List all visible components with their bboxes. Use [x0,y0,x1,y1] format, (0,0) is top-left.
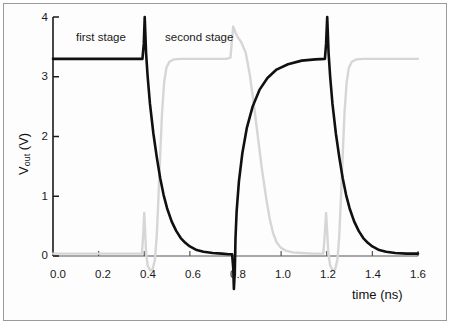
figure-canvas: 4 3 2 1 0 0.0 0.2 0.4 0.6 0.8 1.0 1.2 1.… [0,0,450,324]
xaxis-title: time (ns) [352,287,403,302]
xtick-label-4: 0.8 [222,268,254,280]
ytick-label-1: 1 [34,190,48,202]
yaxis-title: Vout (V) [16,133,32,175]
annotation-first-stage: first stage [76,31,126,43]
ytick-label-2: 2 [34,130,48,142]
annotation-second-stage: second stage [165,31,233,43]
xtick-label-0: 0.0 [42,268,74,280]
yaxis-title-subscript: out [22,154,32,167]
xtick-label-6: 1.2 [312,268,344,280]
xtick-label-5: 1.0 [267,268,299,280]
ytick-label-3: 3 [34,70,48,82]
xtick-label-7: 1.4 [357,268,389,280]
xtick-label-2: 0.4 [132,268,164,280]
xtick-label-1: 0.2 [87,268,119,280]
xaxis-title-text: time (ns) [352,287,403,302]
xtick-label-8: 1.6 [402,268,434,280]
ytick-label-4: 4 [34,11,48,23]
xtick-label-3: 0.6 [177,268,209,280]
yaxis-title-main: V [16,166,31,175]
yaxis-title-unit: (V) [16,133,31,154]
ytick-label-0: 0 [34,249,48,261]
